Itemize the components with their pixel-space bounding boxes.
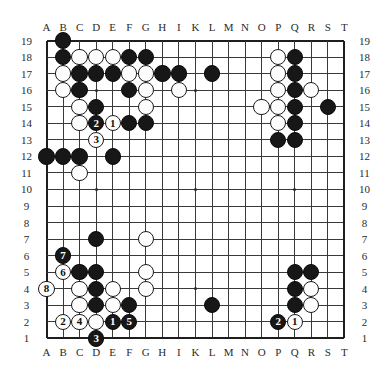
stone-black[interactable] xyxy=(138,115,154,131)
stone-white[interactable] xyxy=(270,65,286,81)
stone-white[interactable] xyxy=(88,314,104,330)
stone-black[interactable] xyxy=(287,82,303,98)
numbered-stone-black-3[interactable]: 3 xyxy=(88,330,104,346)
stone-black[interactable] xyxy=(71,148,87,164)
stone-white[interactable] xyxy=(303,297,319,313)
stone-black[interactable] xyxy=(38,148,54,164)
numbered-stone-white-4[interactable]: 4 xyxy=(71,314,87,330)
stone-white[interactable] xyxy=(55,65,71,81)
stone-black[interactable] xyxy=(55,148,71,164)
stone-black[interactable] xyxy=(287,132,303,148)
column-label-c-top: C xyxy=(72,21,88,33)
stone-black[interactable] xyxy=(71,65,87,81)
stone-black[interactable] xyxy=(88,231,104,247)
stone-black[interactable] xyxy=(204,65,220,81)
stone-white[interactable] xyxy=(71,297,87,313)
stone-white[interactable] xyxy=(138,281,154,297)
stone-black[interactable] xyxy=(121,82,137,98)
numbered-stone-white-2[interactable]: 2 xyxy=(55,314,71,330)
stone-white[interactable] xyxy=(55,82,71,98)
stone-white[interactable] xyxy=(138,99,154,115)
stone-black[interactable] xyxy=(88,264,104,280)
stone-white[interactable] xyxy=(303,281,319,297)
stone-black[interactable] xyxy=(287,264,303,280)
row-label-17-right: 17 xyxy=(354,68,374,80)
stone-white[interactable] xyxy=(71,115,87,131)
numbered-stone-white-3[interactable]: 3 xyxy=(88,132,104,148)
stone-white[interactable] xyxy=(105,297,121,313)
stone-black[interactable] xyxy=(121,297,137,313)
stone-black[interactable] xyxy=(55,32,71,48)
numbered-stone-black-7[interactable]: 7 xyxy=(55,247,71,263)
grid-line-vertical xyxy=(327,41,328,339)
stone-black[interactable] xyxy=(303,264,319,280)
stone-black[interactable] xyxy=(287,297,303,313)
hoshi-point xyxy=(194,188,197,191)
stone-white[interactable] xyxy=(138,231,154,247)
numbered-stone-white-8[interactable]: 8 xyxy=(38,281,54,297)
stone-white[interactable] xyxy=(138,65,154,81)
stone-black[interactable] xyxy=(88,297,104,313)
numbered-stone-white-1[interactable]: 1 xyxy=(287,314,303,330)
stone-white[interactable] xyxy=(71,281,87,297)
stone-white[interactable] xyxy=(71,165,87,181)
stone-white[interactable] xyxy=(71,99,87,115)
stone-black[interactable] xyxy=(287,49,303,65)
numbered-stone-black-1[interactable]: 1 xyxy=(105,314,121,330)
stone-white[interactable] xyxy=(71,49,87,65)
stone-black[interactable] xyxy=(287,65,303,81)
stone-white[interactable] xyxy=(303,82,319,98)
stone-black[interactable] xyxy=(171,65,187,81)
numbered-stone-black-5[interactable]: 5 xyxy=(121,314,137,330)
stone-black[interactable] xyxy=(121,115,137,131)
stone-black[interactable] xyxy=(71,264,87,280)
row-label-3-right: 3 xyxy=(354,299,374,311)
stone-white[interactable] xyxy=(121,65,137,81)
stone-black[interactable] xyxy=(287,99,303,115)
stone-black[interactable] xyxy=(287,115,303,131)
stone-white[interactable] xyxy=(88,49,104,65)
numbered-stone-white-6[interactable]: 6 xyxy=(55,264,71,280)
row-label-2-left: 2 xyxy=(17,316,37,328)
stone-black[interactable] xyxy=(55,49,71,65)
column-label-p-top: P xyxy=(270,21,286,33)
stone-white[interactable] xyxy=(138,264,154,280)
stone-white[interactable] xyxy=(105,49,121,65)
stone-black[interactable] xyxy=(138,49,154,65)
stone-white[interactable] xyxy=(171,82,187,98)
stone-black[interactable] xyxy=(88,65,104,81)
stone-black[interactable] xyxy=(71,82,87,98)
stone-black[interactable] xyxy=(88,281,104,297)
board-grid[interactable]: 2137682415213 xyxy=(0,0,387,385)
numbered-stone-black-2[interactable]: 2 xyxy=(270,314,286,330)
stone-black[interactable] xyxy=(154,65,170,81)
stone-white[interactable] xyxy=(270,82,286,98)
stone-black[interactable] xyxy=(105,148,121,164)
stone-black[interactable] xyxy=(105,65,121,81)
stone-black[interactable] xyxy=(320,99,336,115)
column-label-l-bottom: L xyxy=(204,346,220,358)
column-label-n-bottom: N xyxy=(237,346,253,358)
stone-black[interactable] xyxy=(88,99,104,115)
stone-white[interactable] xyxy=(270,115,286,131)
stone-move-number: 7 xyxy=(56,248,70,262)
column-label-m-bottom: M xyxy=(221,346,237,358)
row-label-14-left: 14 xyxy=(17,117,37,129)
stone-black[interactable] xyxy=(270,132,286,148)
column-label-d-top: D xyxy=(88,21,104,33)
stone-black[interactable] xyxy=(204,297,220,313)
stone-white[interactable] xyxy=(105,281,121,297)
numbered-stone-black-2[interactable]: 2 xyxy=(88,115,104,131)
stone-white[interactable] xyxy=(270,49,286,65)
row-label-16-left: 16 xyxy=(17,84,37,96)
column-label-a-top: A xyxy=(39,21,55,33)
stone-white[interactable] xyxy=(270,99,286,115)
stone-white[interactable] xyxy=(138,82,154,98)
column-label-s-bottom: S xyxy=(320,346,336,358)
stone-black[interactable] xyxy=(121,49,137,65)
stone-black[interactable] xyxy=(287,281,303,297)
row-label-5-left: 5 xyxy=(17,266,37,278)
stone-white[interactable] xyxy=(253,99,269,115)
numbered-stone-white-1[interactable]: 1 xyxy=(105,115,121,131)
row-label-13-right: 13 xyxy=(354,134,374,146)
